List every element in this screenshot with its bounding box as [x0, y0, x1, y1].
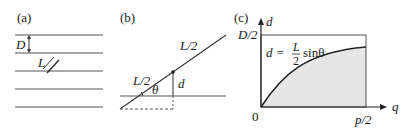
spacing-label: D	[15, 37, 26, 52]
distance-label: d	[178, 76, 185, 91]
formula-lhs: d =	[266, 45, 285, 60]
formula-denominator: 2	[293, 54, 299, 68]
panel-c: (c) d q D/2 p/2 0 d = L 2 sinθ	[234, 10, 399, 127]
half-length-upper: L/2	[179, 38, 198, 53]
x-axis-label: q	[392, 99, 399, 114]
panel-b: (b) L/2 L/2 θ d	[120, 10, 226, 109]
buffon-needle-figure: (a) D L (b) L/2 L/2 θ d (c)	[0, 0, 409, 129]
panel-a-label: (a)	[17, 10, 31, 25]
x-max-label: p/2	[354, 112, 372, 127]
panel-a: (a) D L	[15, 10, 103, 107]
x-axis-arrow-icon	[380, 104, 387, 110]
needle-label: L	[37, 55, 45, 70]
angle-label: θ	[152, 82, 159, 97]
y-axis-arrow-icon	[258, 18, 264, 25]
origin-label: 0	[252, 109, 259, 124]
needle-center-point	[171, 70, 175, 74]
formula-rhs: sinθ	[303, 45, 324, 60]
panel-b-label: (b)	[120, 10, 135, 25]
y-axis-label: d	[266, 14, 273, 29]
y-max-label: D/2	[237, 27, 258, 42]
formula-numerator: L	[292, 40, 300, 54]
half-length-lower: L/2	[132, 73, 151, 88]
panel-c-label: (c)	[234, 10, 248, 25]
